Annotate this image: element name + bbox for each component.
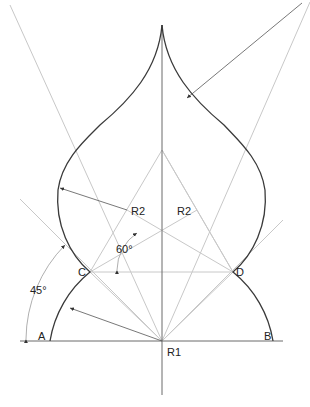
- label-point-a: A: [38, 330, 46, 342]
- label-point-c: C: [78, 266, 86, 278]
- label-point-b: B: [264, 330, 271, 342]
- label-r2-right: R2: [177, 205, 191, 217]
- label-point-d: D: [236, 266, 244, 278]
- construction-lines: [10, 2, 310, 341]
- top-radius-arrow: [187, 3, 302, 98]
- triangle-cross-left: [90, 272, 162, 341]
- label-r1: R1: [167, 346, 181, 358]
- label-60-degree: 60°: [116, 243, 133, 255]
- label-r2-left: R2: [131, 205, 145, 217]
- triangle-left-inner: [162, 150, 233, 272]
- dome-outline-left: [50, 25, 162, 341]
- r1-radius-arrow: [70, 308, 162, 341]
- diagram-svg: R2 R2 60° 45° C D A B R1: [0, 0, 310, 407]
- diagram-canvas: R2 R2 60° 45° C D A B R1: [0, 0, 310, 407]
- triangle-cross-right: [162, 272, 233, 341]
- r2-radius-arrow: [60, 188, 127, 210]
- construction-line-right-diagonal: [162, 2, 310, 341]
- label-45-degree: 45°: [30, 284, 47, 296]
